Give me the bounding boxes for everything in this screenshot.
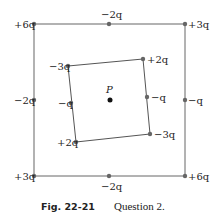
figure-caption: Question 2. (114, 200, 165, 212)
outer-bottom-mid-label: −2q (101, 181, 123, 192)
inner-left-mid-label: −q (58, 98, 73, 109)
inner-bottom-left-label: +2q (57, 137, 79, 148)
outer-top-mid-label: −2q (101, 9, 123, 20)
inner-top-left-label: −3q (49, 61, 71, 72)
inner-bottom-right-label: −3q (154, 129, 176, 140)
outer-bottom-left-label: +3q (14, 171, 36, 182)
inner-top-right-label: +2q (147, 54, 169, 65)
outer-right-mid-label: −q (188, 95, 203, 106)
outer-top-right-label: +3q (188, 19, 210, 30)
outer-bottom-right-label: +6q (188, 171, 210, 182)
point-p-dot (108, 98, 113, 103)
figure-number: Fig. 22-21 (41, 201, 95, 212)
inner-right-mid-label: −q (151, 92, 166, 103)
charge-diagram: P +6q −2q +3q −2q −q +3q −2q +6q −3q +2q… (0, 0, 220, 216)
point-p-label: P (105, 84, 113, 95)
outer-left-mid-label: −2q (14, 95, 36, 106)
outer-top-left-label: +6q (14, 19, 36, 30)
